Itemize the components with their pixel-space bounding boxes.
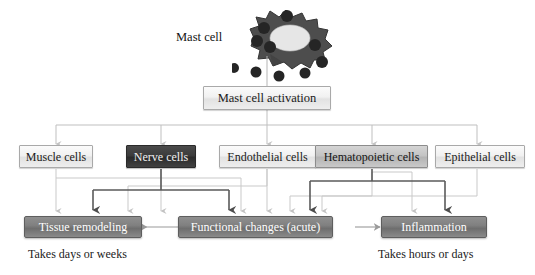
node-label: Muscle cells [26, 151, 86, 163]
node-label: Inflammation [401, 221, 466, 233]
node-functional-changes[interactable]: Functional changes (acute) [178, 216, 333, 238]
node-tissue-remodeling[interactable]: Tissue remodeling [24, 216, 142, 238]
mast-cell-label: Mast cell [176, 31, 222, 44]
node-label: Epithelial cells [444, 151, 516, 163]
diagram-canvas: Mast cell [0, 0, 535, 275]
node-endothelial-cells[interactable]: Endothelial cells [219, 145, 316, 168]
mast-cell-illustration [232, 2, 352, 84]
node-hematopoietic-cells[interactable]: Hematopoietic cells [315, 145, 428, 168]
caption-tissue-remodeling: Takes days or weeks [28, 248, 127, 260]
node-epithelial-cells[interactable]: Epithelial cells [435, 145, 525, 168]
caption-inflammation: Takes hours or days [378, 248, 473, 260]
node-mast-cell-activation[interactable]: Mast cell activation [203, 86, 331, 110]
node-label: Tissue remodeling [39, 221, 128, 233]
node-label: Mast cell activation [218, 92, 317, 105]
node-label: Nerve cells [134, 151, 188, 163]
node-label: Hematopoietic cells [324, 151, 420, 163]
node-inflammation[interactable]: Inflammation [381, 216, 487, 238]
node-label: Functional changes (acute) [191, 221, 320, 233]
node-muscle-cells[interactable]: Muscle cells [19, 145, 93, 168]
node-nerve-cells[interactable]: Nerve cells [126, 145, 196, 168]
node-label: Endothelial cells [227, 151, 307, 163]
